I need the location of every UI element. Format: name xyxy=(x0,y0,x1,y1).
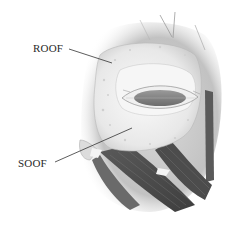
figure-canvas: ROOF SOOF xyxy=(0,0,234,227)
soof-label: SOOF xyxy=(18,158,47,169)
roof-label: ROOF xyxy=(33,43,63,54)
periorbital-anatomy-illustration xyxy=(0,0,234,227)
